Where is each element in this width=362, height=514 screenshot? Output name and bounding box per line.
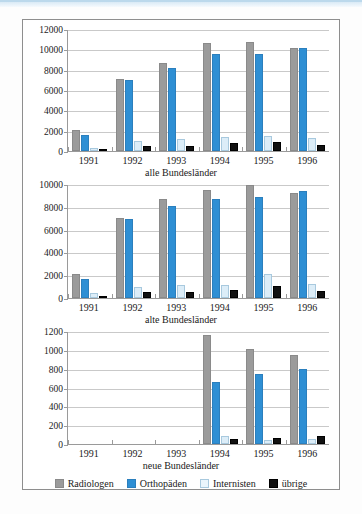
bar-radiologen: [72, 274, 80, 298]
y-axis-tick-label: 8000: [44, 203, 63, 213]
bar-radiologen: [246, 185, 254, 298]
charts-container: 0200040006000800010000120001991199219931…: [23, 30, 339, 471]
bar-internisten: [308, 439, 316, 444]
bar-uebrige: [230, 143, 238, 151]
y-axis-tick-label: 0: [58, 147, 63, 157]
bar-radiologen: [116, 79, 124, 151]
bar-group: [155, 30, 199, 151]
bar-group: [286, 30, 330, 151]
bar-internisten: [177, 285, 185, 298]
bar-orthopaeden: [212, 54, 220, 151]
chart-panel: 0200040006000800010000120001991199219931…: [22, 19, 340, 490]
x-axis-tick-label: 1996: [285, 302, 329, 313]
bar-group: [199, 332, 243, 444]
bar-group: [155, 332, 199, 444]
bar-internisten: [134, 141, 142, 151]
y-axis-tick-label: 1000: [44, 346, 63, 356]
bar-uebrige: [99, 149, 107, 151]
x-axis: 199119921993199419951996: [67, 448, 329, 459]
bar-uebrige: [186, 292, 194, 298]
y-axis-tick-label: 2000: [44, 127, 63, 137]
bar-internisten: [264, 274, 272, 298]
legend-swatch-radiologen: [55, 479, 64, 488]
bar-group: [155, 185, 199, 298]
bar-orthopaeden: [255, 197, 263, 298]
bar-group: [286, 185, 330, 298]
bar-internisten: [221, 436, 229, 444]
bar-internisten: [221, 137, 229, 151]
bar-radiologen: [290, 48, 298, 151]
top-decorative-band: [0, 0, 362, 7]
legend-item-uebrige: übrige: [269, 478, 308, 489]
bar-uebrige: [317, 145, 325, 151]
bar-group: [68, 332, 112, 444]
bar-uebrige: [273, 438, 281, 444]
bar-group: [68, 30, 112, 151]
x-axis: 199119921993199419951996: [67, 155, 329, 166]
chart-3: 0200400600800100012001991199219931994199…: [23, 332, 339, 471]
y-tick-mark: [64, 445, 68, 446]
bar-radiologen: [203, 335, 211, 444]
bar-internisten: [90, 148, 98, 151]
plot-area-wrapper: 020040060080010001200: [67, 332, 329, 445]
bar-uebrige: [273, 286, 281, 298]
bar-orthopaeden: [168, 206, 176, 298]
y-axis-tick-label: 2000: [44, 271, 63, 281]
bar-orthopaeden: [212, 199, 220, 298]
bar-radiologen: [159, 199, 167, 298]
bar-radiologen: [72, 130, 80, 151]
legend-item-internisten: Internisten: [200, 478, 256, 489]
x-axis-tick-label: 1991: [67, 302, 111, 313]
y-axis-tick-label: 0: [58, 440, 63, 450]
legend-label: Radiologen: [68, 478, 114, 489]
legend-swatch-orthopaeden: [127, 479, 136, 488]
chart-2: 0200040006000800010000199119921993199419…: [23, 185, 339, 325]
bar-uebrige: [273, 142, 281, 151]
plot-area: 020040060080010001200: [67, 332, 329, 445]
bar-orthopaeden: [125, 80, 133, 151]
bar-radiologen: [159, 63, 167, 151]
bar-orthopaeden: [299, 191, 307, 298]
bar-internisten: [221, 285, 229, 298]
bar-uebrige: [143, 292, 151, 298]
bar-orthopaeden: [81, 279, 89, 298]
bar-radiologen: [246, 42, 254, 151]
y-tick-mark: [64, 299, 68, 300]
bar-radiologen: [203, 190, 211, 298]
plot-area: 020004000600080001000012000: [67, 30, 329, 152]
bar-group: [112, 30, 156, 151]
y-tick-mark: [64, 152, 68, 153]
y-axis-tick-label: 6000: [44, 226, 63, 236]
bar-radiologen: [203, 43, 211, 151]
legend-item-orthopaeden: Orthopäden: [127, 478, 187, 489]
legend-swatch-internisten: [200, 479, 209, 488]
x-axis-tick-label: 1993: [154, 155, 198, 166]
x-axis-tick-label: 1995: [242, 155, 286, 166]
x-axis-tick-label: 1992: [111, 155, 155, 166]
chart-caption: alle Bundesländer: [23, 167, 339, 178]
legend-label: Internisten: [213, 478, 256, 489]
bar-radiologen: [290, 355, 298, 444]
bar-group: [199, 30, 243, 151]
y-axis-tick-label: 4000: [44, 248, 63, 258]
bar-uebrige: [230, 290, 238, 298]
bar-radiologen: [116, 218, 124, 298]
bar-group: [242, 185, 286, 298]
bar-internisten: [308, 138, 316, 151]
legend-item-radiologen: Radiologen: [55, 478, 114, 489]
bar-group: [199, 185, 243, 298]
y-axis-tick-label: 400: [49, 402, 63, 412]
top-band-edge: [0, 0, 362, 2]
x-axis-tick-label: 1994: [198, 302, 242, 313]
bar-orthopaeden: [299, 369, 307, 444]
x-axis-tick-label: 1991: [67, 448, 111, 459]
x-axis-tick-label: 1992: [111, 448, 155, 459]
plot-area: 0200040006000800010000: [67, 185, 329, 299]
y-axis-tick-label: 6000: [44, 86, 63, 96]
legend-label: übrige: [282, 478, 308, 489]
bar-groups: [68, 332, 329, 444]
bar-radiologen: [246, 349, 254, 444]
bar-orthopaeden: [212, 382, 220, 444]
bar-group: [242, 30, 286, 151]
bar-internisten: [264, 136, 272, 151]
